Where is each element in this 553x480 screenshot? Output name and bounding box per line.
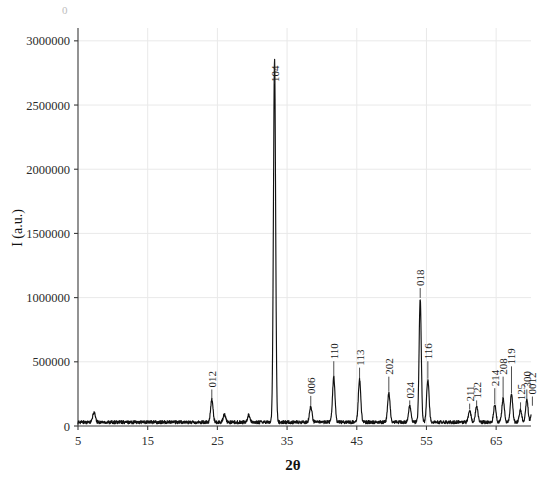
y-tick-label: 2000000 [26, 163, 70, 177]
x-tick-label: 45 [351, 434, 364, 448]
x-axis-title: 2θ [285, 457, 301, 473]
y-tick-label: 500000 [33, 355, 71, 369]
peak-label-018: 018 [414, 269, 426, 286]
axes [78, 28, 531, 426]
y-tick-label: 2500000 [26, 99, 70, 113]
peak-label-012: 012 [206, 371, 218, 388]
x-tick-label: 5 [75, 434, 81, 448]
x-tick-label: 35 [281, 434, 294, 448]
x-tick-label: 55 [420, 434, 433, 448]
peak-labels: 0121040061101132020240181162111222142081… [206, 59, 539, 409]
y-tick-label: 0 [64, 420, 70, 434]
peak-label-113: 113 [354, 349, 366, 366]
x-tick-label: 25 [211, 434, 224, 448]
spectrum-line [78, 59, 531, 424]
y-tick-label: 1500000 [26, 227, 70, 241]
spectrum-trace [78, 59, 531, 424]
xrd-chart: 0500000100000015000002000000250000030000… [0, 0, 553, 480]
corner-mark: 0 [62, 4, 68, 16]
peak-label-116: 116 [422, 343, 434, 360]
x-tick-label: 65 [490, 434, 503, 448]
y-axis-title: I (a.u.) [10, 209, 26, 247]
x-tick-label: 15 [141, 434, 154, 448]
peak-label-024: 024 [404, 381, 416, 398]
chart-canvas: 0500000100000015000002000000250000030000… [0, 0, 553, 480]
y-tick-label: 1000000 [26, 291, 70, 305]
y-tick-label: 3000000 [26, 34, 70, 48]
peak-label-104: 104 [269, 65, 281, 82]
grid-lines [78, 28, 531, 426]
peak-label-006: 006 [305, 377, 317, 394]
y-tick-labels: 0500000100000015000002000000250000030000… [26, 34, 78, 433]
peak-label-122: 122 [471, 382, 483, 399]
peak-label-202: 202 [383, 358, 395, 375]
peak-label-119: 119 [505, 348, 517, 365]
peak-label-110: 110 [328, 343, 340, 360]
peak-label-0012: 0012 [526, 373, 538, 395]
x-tick-labels: 5152535455565 [75, 426, 503, 448]
